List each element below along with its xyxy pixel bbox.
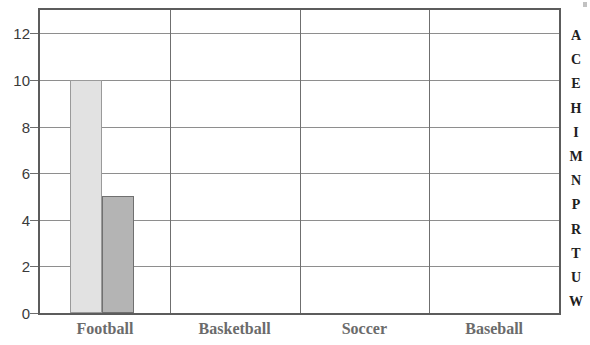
side-letter-column: ACEHIMNPRTUW [566,0,590,345]
x-axis-tick-label: Soccer [342,318,387,340]
y-axis-tick-mark [30,313,38,314]
y-axis-tick-label: 12 [4,26,30,41]
x-axis-tick-label: Football [76,318,133,340]
side-letter: C [566,53,586,67]
side-letter: T [566,247,586,261]
y-axis-tick-mark [30,220,38,221]
y-axis-tick-labels: 024681012 [0,0,30,345]
side-letter: R [566,223,586,237]
side-letter: I [566,126,586,140]
y-axis-tick-label: 2 [4,259,30,274]
x-axis-tick-label: Basketball [199,318,271,340]
side-letter: H [566,102,586,116]
y-axis-tick-mark [30,33,38,34]
y-axis-tick-mark [30,173,38,174]
y-axis-tick-label: 6 [4,166,30,181]
side-letter: P [566,198,586,212]
side-letter: U [566,271,586,285]
corner-mark-icon [583,2,587,7]
side-letter: W [566,295,586,309]
x-axis-tick-label: Baseball [465,318,523,340]
plot-area [38,8,561,315]
y-axis-tick-label: 10 [4,72,30,87]
bar-chart: 024681012 FootballBasketballSoccerBaseba… [0,0,590,345]
x-axis-category-labels: FootballBasketballSoccerBaseball [38,318,561,344]
side-letter: M [566,150,586,164]
y-axis-tick-mark [30,127,38,128]
vertical-gridline [300,10,301,313]
bar [102,196,134,313]
y-axis-tick-label: 4 [4,212,30,227]
y-axis-tick-mark [30,80,38,81]
vertical-gridline [170,10,171,313]
bar [70,80,102,313]
vertical-gridline [429,10,430,313]
y-axis-tick-label: 0 [4,306,30,321]
y-axis-tick-label: 8 [4,119,30,134]
side-letter: A [566,29,586,43]
side-letter: E [566,77,586,91]
side-letter: N [566,174,586,188]
y-axis-tick-mark [30,266,38,267]
